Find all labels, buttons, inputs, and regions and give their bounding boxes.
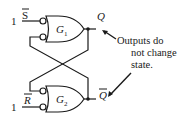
annotation-line-3: state. (131, 59, 153, 70)
s-input-value: 1 (11, 15, 17, 27)
g2-input-bubble-bottom (40, 104, 46, 110)
annotation-line-2: not change (131, 47, 177, 58)
q-junction-dot (86, 27, 90, 31)
arrow-to-qbar-line (110, 73, 131, 95)
s-input-label: S (22, 9, 28, 21)
feedback-q-to-g2 (30, 29, 88, 91)
feedback-qbar-to-g1 (30, 37, 88, 99)
gate-g1-body (46, 16, 84, 42)
qbar-junction-dot (86, 97, 90, 101)
annotation-line-1: Outputs do (117, 35, 163, 46)
sr-latch-diagram: 1 S G 1 Q 1 R G 2 Q Outputs do not chang… (0, 0, 192, 127)
gate-g2-body (46, 86, 84, 112)
r-input-label: R (23, 94, 31, 106)
qbar-output-label: Q (99, 89, 107, 101)
q-output-label: Q (97, 10, 105, 22)
gate-g1-subscript: 1 (64, 30, 68, 38)
gate-g1-label: G (56, 23, 64, 35)
r-input-value: 1 (11, 101, 17, 113)
gate-g2-label: G (56, 93, 64, 105)
g2-input-bubble-top (40, 88, 46, 94)
g1-input-bubble-bottom (40, 34, 46, 40)
g1-input-bubble-top (40, 18, 46, 24)
gate-g2-subscript: 2 (64, 100, 68, 108)
